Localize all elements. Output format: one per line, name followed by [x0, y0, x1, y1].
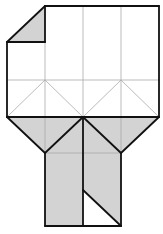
origami-diagram [0, 0, 163, 234]
